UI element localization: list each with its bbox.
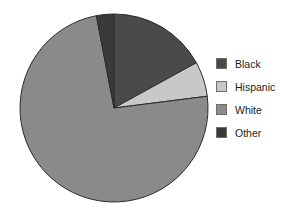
- legend-item-white[interactable]: White: [216, 103, 300, 116]
- legend-item-hispanic[interactable]: Hispanic: [216, 80, 300, 93]
- legend-swatch-white: [216, 104, 227, 115]
- legend-swatch-other: [216, 127, 227, 138]
- pie-chart-figure: Black Hispanic White Other: [0, 0, 300, 208]
- legend-label-other: Other: [235, 127, 261, 139]
- legend-label-white: White: [235, 104, 262, 116]
- legend-item-black[interactable]: Black: [216, 57, 300, 70]
- chart-legend: Black Hispanic White Other: [216, 57, 300, 139]
- legend-swatch-black: [216, 58, 227, 69]
- legend-item-other[interactable]: Other: [216, 126, 300, 139]
- legend-swatch-hispanic: [216, 81, 227, 92]
- legend-label-hispanic: Hispanic: [235, 81, 275, 93]
- legend-label-black: Black: [235, 58, 261, 70]
- pie-slice-group: [20, 14, 208, 202]
